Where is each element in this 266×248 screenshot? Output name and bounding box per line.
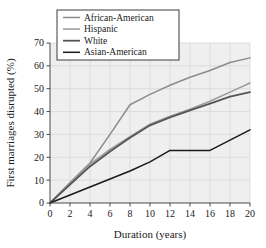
- x-tick-label: 16: [205, 208, 215, 219]
- legend-label-hispanic: Hispanic: [84, 24, 118, 34]
- y-tick-label: 20: [34, 152, 44, 163]
- y-tick-label: 10: [34, 175, 44, 186]
- x-tick-label: 8: [128, 208, 133, 219]
- x-tick-label: 10: [145, 208, 155, 219]
- x-tick-label: 4: [88, 208, 93, 219]
- legend-label-white: White: [84, 36, 107, 46]
- x-tick-label: 18: [225, 208, 235, 219]
- y-tick-label: 0: [39, 197, 44, 208]
- line-chart: 010203040506070 02468101214161820 Durati…: [0, 0, 266, 248]
- x-tick-label: 6: [108, 208, 113, 219]
- x-tick-label: 20: [245, 208, 255, 219]
- x-tick-label: 2: [68, 208, 73, 219]
- legend-label-asian-american: Asian-American: [84, 47, 147, 57]
- y-tick-label: 40: [34, 106, 44, 117]
- legend-label-african-american: African-American: [84, 13, 154, 23]
- y-tick-label: 50: [34, 83, 44, 94]
- x-tick-label: 14: [185, 208, 195, 219]
- y-tick-label: 60: [34, 60, 44, 71]
- x-tick-label: 0: [48, 208, 53, 219]
- x-tick-label: 12: [165, 208, 175, 219]
- x-axis-title: Duration (years): [114, 228, 187, 241]
- y-tick-label: 30: [34, 129, 44, 140]
- chart-figure: 010203040506070 02468101214161820 Durati…: [0, 0, 266, 248]
- legend: African-AmericanHispanicWhiteAsian-Ameri…: [57, 10, 179, 60]
- y-tick-label: 70: [34, 37, 44, 48]
- y-axis-title: First marriages disrupted (%): [4, 58, 17, 188]
